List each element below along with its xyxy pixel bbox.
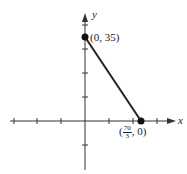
point-label-70-3-0: (703, 0) <box>119 125 146 140</box>
point-70-3-0 <box>138 118 145 125</box>
y-axis-label: y <box>92 9 97 20</box>
x-axis-label: x <box>178 115 183 126</box>
line-segment <box>85 37 141 121</box>
y-axis-arrow-icon <box>82 13 88 22</box>
label-close: , 0) <box>132 125 147 137</box>
fraction-denominator: 3 <box>123 133 132 140</box>
graph-canvas <box>0 0 187 174</box>
point-label-0-35: (0, 35) <box>90 32 119 43</box>
fraction: 703 <box>123 125 132 140</box>
x-axis-arrow-icon <box>167 118 176 124</box>
point-0-35 <box>82 34 89 41</box>
